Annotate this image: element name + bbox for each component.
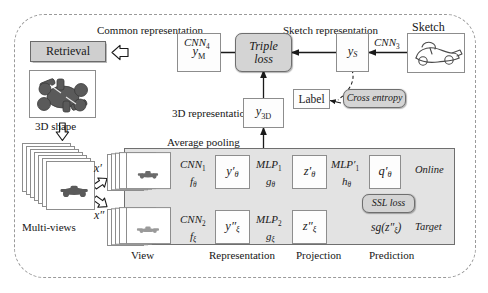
triple-loss-line2: loss bbox=[254, 53, 273, 66]
multi-views-caption: Multi-views bbox=[22, 221, 76, 233]
figure-canvas: Common representation Sketch representat… bbox=[0, 0, 488, 293]
triple-loss-pill: Triple loss bbox=[235, 33, 292, 72]
three-d-shape-caption: 3D shape bbox=[35, 120, 76, 132]
stage-caption-prediction: Prediction bbox=[369, 249, 414, 261]
z-xi-double-prime-label: z″ξ bbox=[303, 220, 317, 234]
y-3d-box: y3D bbox=[243, 98, 284, 128]
y-s-box: yS bbox=[336, 33, 369, 72]
online-label: Online bbox=[415, 164, 444, 175]
x-double-prime-label: x″ bbox=[94, 208, 104, 223]
sg-z-xi-label: sg(z″ξ) bbox=[371, 221, 401, 235]
three-d-representation-caption: 3D representation bbox=[172, 107, 251, 119]
cross-entropy-label: Cross entropy bbox=[347, 93, 403, 104]
stage-caption-view: View bbox=[131, 249, 154, 261]
g-xi-label: gξ bbox=[266, 230, 275, 244]
ssl-loss-label: SSL loss bbox=[372, 198, 405, 209]
z-theta-prime-box: z′θ bbox=[292, 155, 327, 189]
cnn3-label: CNN3 bbox=[374, 36, 400, 51]
y-xi-double-prime-label: y″ξ bbox=[225, 220, 239, 234]
y-xi-double-prime-box: y″ξ bbox=[215, 210, 250, 244]
cross-entropy-pill: Cross entropy bbox=[343, 89, 406, 108]
retrieval-box[interactable]: Retrieval bbox=[30, 41, 106, 62]
label-box-text: Label bbox=[298, 93, 324, 105]
stage-caption-projection: Projection bbox=[296, 249, 341, 261]
z-xi-double-prime-box: z″ξ bbox=[292, 210, 327, 244]
three-d-shape-thumbnail bbox=[29, 70, 96, 118]
h-theta-label: hθ bbox=[342, 175, 351, 189]
label-box: Label bbox=[293, 89, 330, 109]
y-s-label: yS bbox=[348, 45, 358, 59]
average-pooling-caption: Average pooling bbox=[167, 136, 240, 148]
target-label: Target bbox=[415, 221, 442, 232]
g-theta-label: gθ bbox=[266, 175, 275, 189]
cnn1-label: CNN1 bbox=[180, 158, 206, 173]
q-theta-prime-label: q′θ bbox=[378, 165, 391, 179]
online-view-stack bbox=[107, 152, 173, 192]
mlp1-prime-label: MLP′1 bbox=[331, 158, 359, 173]
target-view-stack bbox=[107, 207, 173, 247]
multi-views-stack bbox=[22, 143, 100, 218]
cnn2-label: CNN2 bbox=[180, 213, 206, 228]
y-3d-label: y3D bbox=[256, 105, 272, 121]
cnn4-label: CNN4 bbox=[184, 36, 210, 51]
f-theta-label: fθ bbox=[190, 175, 197, 189]
y-theta-prime-box: y′θ bbox=[215, 155, 250, 189]
ssl-loss-pill: SSL loss bbox=[362, 194, 415, 213]
z-theta-prime-label: z′θ bbox=[304, 165, 316, 179]
sketch-thumbnail bbox=[407, 33, 465, 73]
f-xi-label: fξ bbox=[190, 230, 196, 244]
triple-loss-line1: Triple bbox=[249, 40, 278, 53]
q-theta-prime-box: q′θ bbox=[369, 155, 401, 189]
stage-caption-representation: Representation bbox=[209, 249, 275, 261]
mlp1-label: MLP1 bbox=[256, 158, 282, 173]
mlp2-label: MLP2 bbox=[256, 213, 282, 228]
retrieval-label: Retrieval bbox=[46, 44, 90, 59]
x-prime-label: x′ bbox=[94, 161, 102, 176]
y-theta-prime-label: y′θ bbox=[226, 165, 238, 179]
